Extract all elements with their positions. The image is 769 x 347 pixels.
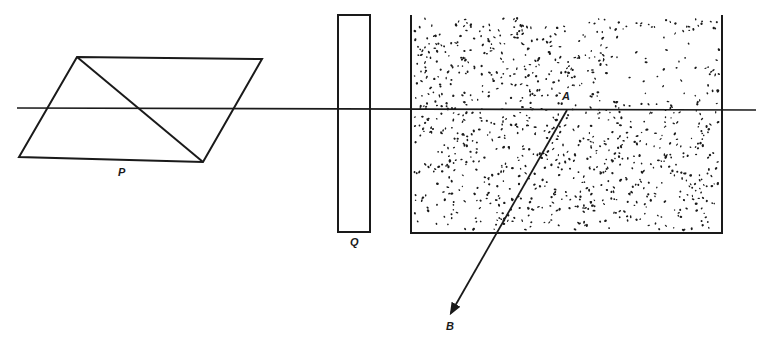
medium-stipple: [413, 17, 720, 232]
ray-ab: [451, 110, 567, 313]
label-a: A: [561, 90, 570, 102]
label-b: B: [446, 320, 454, 332]
plate-q: [338, 15, 370, 232]
prism-diagonal: [77, 57, 203, 162]
label-p: P: [118, 166, 126, 178]
optical-axis: [17, 108, 756, 110]
medium-container: [411, 15, 722, 233]
prism-p: [19, 57, 262, 162]
diagram-canvas: P Q A B: [0, 0, 769, 347]
label-q: Q: [350, 236, 359, 248]
medium-outline: [411, 15, 722, 233]
